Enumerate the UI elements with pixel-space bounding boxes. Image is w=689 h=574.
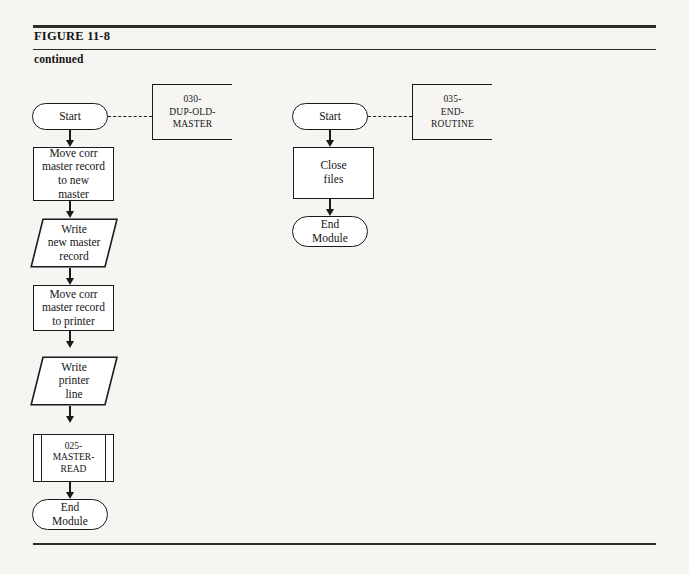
node-line-4: master bbox=[58, 188, 89, 202]
figure-number-label: FIGURE 11-8 bbox=[34, 29, 110, 44]
annotation-line-2: DUP-OLD- bbox=[169, 106, 215, 119]
node-line-1: Write bbox=[30, 223, 118, 237]
node-line-1: Move corr bbox=[49, 288, 97, 302]
node-line-3: READ bbox=[61, 464, 87, 475]
flowchart-2-end-terminator: End Module bbox=[292, 216, 368, 247]
annotation-line-3: ROUTINE bbox=[431, 118, 474, 131]
connector-arrowhead bbox=[326, 209, 334, 216]
flowchart-1-move-to-new-master-process: Move corr master record to new master bbox=[33, 147, 114, 201]
flowchart-2-annotation-box: 035- END- ROUTINE bbox=[412, 84, 492, 140]
flowchart-1-end-terminator: End Module bbox=[32, 499, 108, 530]
node-line-2: new master bbox=[30, 236, 118, 250]
node-line-1: 025- bbox=[65, 441, 82, 452]
connector-arrowhead bbox=[66, 341, 74, 348]
annotation-line-1: 035- bbox=[443, 93, 461, 106]
annotation-line-2: END- bbox=[441, 106, 465, 119]
node-line-2: master record bbox=[42, 301, 105, 315]
figure-page: FIGURE 11-8 continued Start 030- DUP-OLD… bbox=[0, 0, 689, 574]
flowchart-2-start-terminator: Start bbox=[292, 103, 368, 130]
node-line-1: Move corr bbox=[49, 147, 97, 161]
connector-arrowhead bbox=[66, 278, 74, 285]
annotation-line-3: MASTER bbox=[173, 118, 213, 131]
connector-arrowhead bbox=[66, 211, 74, 218]
connector-arrowhead bbox=[66, 416, 74, 423]
flowchart-1-write-printer-line-io: Write printer line bbox=[30, 356, 118, 406]
node-line-1: Close bbox=[320, 159, 346, 173]
flowchart-2-annotation-connector bbox=[368, 116, 412, 117]
node-line-2: master record bbox=[42, 160, 105, 174]
node-line-1: Write bbox=[30, 361, 118, 375]
node-line-2: printer bbox=[30, 374, 118, 388]
connector-arrowhead bbox=[326, 140, 334, 147]
flowchart-1-move-to-printer-process: Move corr master record to printer bbox=[33, 285, 114, 331]
node-line-2: files bbox=[324, 173, 344, 187]
header-rule-middle bbox=[33, 49, 656, 50]
node-line-3: record bbox=[30, 250, 118, 264]
flowchart-1-annotation-box: 030- DUP-OLD- MASTER bbox=[152, 84, 232, 140]
annotation-line-1: 030- bbox=[183, 93, 201, 106]
connector-arrowhead bbox=[66, 492, 74, 499]
node-label: Start bbox=[319, 110, 341, 124]
node-line-1: End bbox=[321, 218, 340, 232]
node-line-1: End bbox=[61, 501, 80, 515]
flowchart-2-close-files-process: Close files bbox=[293, 147, 374, 199]
node-line-3: line bbox=[30, 388, 118, 402]
footer-rule bbox=[33, 543, 656, 545]
flowchart-1-start-terminator: Start bbox=[32, 103, 108, 130]
node-line-2: Module bbox=[52, 515, 88, 529]
flowchart-1-master-read-predefined-process: 025- MASTER- READ bbox=[33, 434, 114, 482]
node-line-2: Module bbox=[312, 232, 348, 246]
node-line-2: MASTER- bbox=[53, 452, 95, 463]
header-rule-top bbox=[33, 25, 656, 28]
node-line-3: to printer bbox=[52, 315, 94, 329]
flowchart-1-write-new-master-io: Write new master record bbox=[30, 218, 118, 268]
flowchart-1-annotation-connector bbox=[108, 116, 152, 117]
node-label: Start bbox=[59, 110, 81, 124]
figure-continued-label: continued bbox=[34, 53, 83, 65]
node-line-3: to new bbox=[58, 174, 89, 188]
